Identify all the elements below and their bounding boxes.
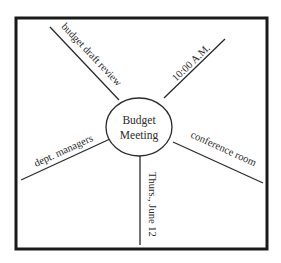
spoke-label-right: conference room [189, 129, 258, 168]
spoke-line-top-right [164, 39, 225, 98]
web-diagram: Budget Meeting budget draft review 10:00… [0, 0, 281, 263]
spoke-label-top-right: 10:00 A.M. [170, 42, 212, 83]
center-oval [106, 98, 172, 156]
spoke-label-top-left: budget draft review [60, 21, 125, 89]
center-label-line2: Meeting [120, 129, 159, 142]
spoke-label-bottom: Thurs., June 12 [147, 172, 158, 237]
center-label-line1: Budget [122, 114, 156, 127]
